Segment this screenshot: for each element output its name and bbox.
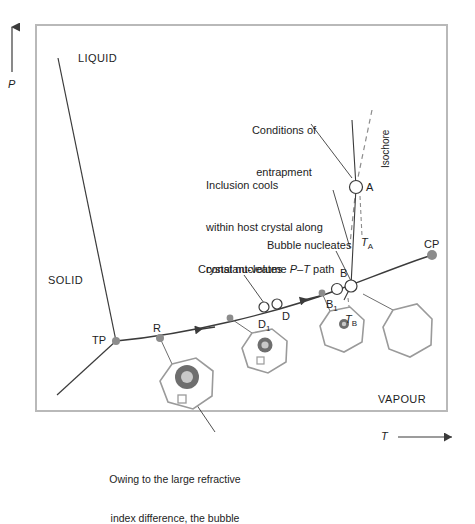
point-label-d1: D1 (258, 318, 270, 333)
stem-inclusion-r (160, 338, 172, 364)
annotation-line: Inclusion cools (206, 178, 334, 192)
point-label-a: A (366, 181, 373, 193)
annotation-inclusion-cools: Inclusion cools within host crystal alon… (206, 150, 334, 304)
point-label-b1: B1 (326, 298, 338, 313)
inclusion-stage-a (383, 304, 432, 357)
figure-caption: Owing to the large refractive index diff… (60, 447, 290, 524)
marker-point-r (156, 334, 164, 342)
field-label-vapour: VAPOUR (378, 393, 426, 405)
ta-dashed-line (360, 196, 362, 236)
stem-inclusion-a (363, 294, 393, 310)
isochore-line (350, 110, 372, 244)
temperature-label-tb: TB (345, 313, 357, 328)
isochore-label: Isochore (380, 130, 391, 168)
curve-marker-d1-stem (227, 315, 234, 322)
point-label-r: R (153, 322, 161, 334)
point-label-d: D (282, 310, 290, 322)
sublimation-curve (57, 341, 116, 395)
point-label-b: B (340, 267, 347, 279)
annotation-line: within host crystal along (206, 220, 334, 234)
marker-point-b (345, 280, 357, 292)
inclusion-stage-d1 (242, 329, 287, 373)
temperature-label-ta: TA (361, 236, 373, 251)
annotation-line: Conditions of (252, 123, 316, 137)
point-label-cp: CP (424, 238, 439, 250)
inclusion-stage-b1 (320, 307, 364, 352)
stem-inclusion-d1 (230, 318, 252, 333)
figure-canvas: P T LIQUID SOLID VAPOUR Conditions of en… (0, 0, 475, 524)
annotation-crystal-nucleates: Crystal nucleates (198, 262, 282, 276)
annotation-bubble-nucleates: Bubble nucleates (267, 238, 351, 252)
point-label-tp: TP (92, 334, 106, 346)
solid-liquid-boundary (58, 58, 116, 341)
caption-line: index difference, the bubble (60, 512, 290, 524)
field-label-solid: SOLID (48, 274, 83, 286)
p-axis-label: P (8, 78, 15, 90)
t-axis-label: T (381, 430, 388, 442)
caption-line: Owing to the large refractive (60, 473, 290, 486)
marker-point-cp (427, 250, 437, 260)
marker-point-a (350, 181, 363, 194)
inclusion-stage-r (160, 358, 213, 409)
field-label-liquid: LIQUID (78, 52, 117, 64)
marker-point-tp (112, 337, 120, 345)
